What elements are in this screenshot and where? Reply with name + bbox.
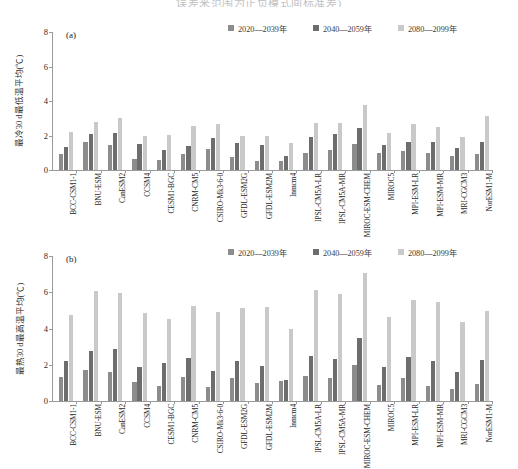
- bar[interactable]: [69, 315, 73, 401]
- bar[interactable]: [260, 145, 264, 170]
- bar[interactable]: [230, 378, 234, 401]
- bar[interactable]: [289, 329, 293, 401]
- bar[interactable]: [480, 360, 484, 401]
- bar[interactable]: [143, 136, 147, 170]
- bar[interactable]: [450, 389, 454, 401]
- bar[interactable]: [69, 132, 73, 170]
- bar[interactable]: [455, 148, 459, 170]
- bar[interactable]: [475, 154, 479, 170]
- bar[interactable]: [357, 128, 361, 170]
- bar[interactable]: [186, 146, 190, 170]
- bar[interactable]: [118, 293, 122, 401]
- bar[interactable]: [143, 313, 147, 401]
- bar[interactable]: [59, 377, 63, 401]
- bar[interactable]: [382, 367, 386, 401]
- bar[interactable]: [132, 382, 136, 401]
- bar[interactable]: [431, 142, 435, 170]
- bar[interactable]: [279, 161, 283, 170]
- bar[interactable]: [211, 371, 215, 401]
- bar[interactable]: [132, 159, 136, 170]
- bar[interactable]: [206, 149, 210, 170]
- bar[interactable]: [108, 145, 112, 170]
- bar[interactable]: [450, 156, 454, 170]
- bar[interactable]: [289, 143, 293, 170]
- bar[interactable]: [363, 105, 367, 170]
- bar[interactable]: [211, 138, 215, 170]
- bar[interactable]: [352, 144, 356, 170]
- bar[interactable]: [303, 153, 307, 170]
- bar[interactable]: [230, 157, 234, 170]
- bar[interactable]: [167, 319, 171, 401]
- bar[interactable]: [255, 161, 259, 170]
- bar[interactable]: [265, 307, 269, 401]
- bar[interactable]: [460, 322, 464, 401]
- bar[interactable]: [113, 349, 117, 401]
- bar[interactable]: [235, 361, 239, 401]
- bar[interactable]: [108, 372, 112, 401]
- bar[interactable]: [333, 359, 337, 401]
- bar[interactable]: [240, 308, 244, 401]
- bar[interactable]: [162, 150, 166, 170]
- bar[interactable]: [83, 370, 87, 401]
- bar[interactable]: [314, 123, 318, 170]
- bar[interactable]: [279, 381, 283, 401]
- bar[interactable]: [328, 378, 332, 401]
- bar[interactable]: [157, 160, 161, 170]
- bar[interactable]: [216, 124, 220, 170]
- bar[interactable]: [455, 372, 459, 401]
- bar[interactable]: [426, 386, 430, 401]
- bar[interactable]: [83, 142, 87, 170]
- bar[interactable]: [265, 136, 269, 171]
- bar[interactable]: [167, 135, 171, 170]
- bar[interactable]: [309, 137, 313, 170]
- bar[interactable]: [255, 383, 259, 401]
- bar[interactable]: [284, 380, 288, 401]
- bar[interactable]: [89, 134, 93, 170]
- bar[interactable]: [309, 356, 313, 401]
- bar[interactable]: [191, 126, 195, 170]
- bar[interactable]: [59, 154, 63, 170]
- bar[interactable]: [260, 366, 264, 401]
- bar[interactable]: [186, 358, 190, 402]
- bar[interactable]: [436, 127, 440, 170]
- bar[interactable]: [377, 153, 381, 170]
- bar[interactable]: [363, 273, 367, 401]
- bar[interactable]: [181, 377, 185, 401]
- bar[interactable]: [387, 133, 391, 170]
- bar[interactable]: [333, 134, 337, 170]
- bar[interactable]: [137, 367, 141, 401]
- bar[interactable]: [216, 312, 220, 401]
- bar[interactable]: [406, 142, 410, 170]
- bar[interactable]: [406, 357, 410, 401]
- bar[interactable]: [94, 122, 98, 170]
- bar[interactable]: [94, 291, 98, 401]
- bar[interactable]: [191, 306, 195, 401]
- bar[interactable]: [401, 151, 405, 170]
- bar[interactable]: [64, 361, 68, 401]
- bar[interactable]: [338, 123, 342, 170]
- bar[interactable]: [314, 290, 318, 401]
- bar[interactable]: [431, 361, 435, 401]
- bar[interactable]: [181, 154, 185, 170]
- bar[interactable]: [137, 144, 141, 170]
- bar[interactable]: [436, 302, 440, 401]
- bar[interactable]: [206, 387, 210, 401]
- bar[interactable]: [411, 124, 415, 170]
- bar[interactable]: [338, 294, 342, 401]
- bar[interactable]: [89, 351, 93, 401]
- bar[interactable]: [118, 118, 122, 170]
- bar[interactable]: [411, 300, 415, 402]
- bar[interactable]: [475, 384, 479, 401]
- bar[interactable]: [64, 147, 68, 170]
- bar[interactable]: [162, 363, 166, 401]
- bar[interactable]: [387, 317, 391, 401]
- bar[interactable]: [401, 378, 405, 401]
- bar[interactable]: [157, 386, 161, 401]
- bar[interactable]: [377, 385, 381, 401]
- bar[interactable]: [357, 338, 361, 401]
- bar[interactable]: [480, 142, 484, 170]
- bar[interactable]: [235, 143, 239, 170]
- bar[interactable]: [303, 376, 307, 401]
- bar[interactable]: [485, 311, 489, 401]
- bar[interactable]: [352, 365, 356, 401]
